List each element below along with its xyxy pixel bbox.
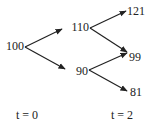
binomial-tree-diagram: 100110901219981 t = 0t = 2 xyxy=(0,0,149,128)
arrow-n0-n1u xyxy=(25,29,62,47)
arrow-n1u-n2uu xyxy=(90,11,126,28)
arrow-n1d-n2ud xyxy=(89,53,127,70)
nodes: 100110901219981 xyxy=(6,4,145,99)
arrow-n1u-n2ud xyxy=(90,28,127,52)
arrow-n0-n1d xyxy=(25,47,65,69)
node-label-n2ud: 99 xyxy=(129,50,141,64)
node-label-n1u: 110 xyxy=(71,20,89,34)
tree-svg: 100110901219981 t = 0t = 2 xyxy=(0,0,149,128)
time-label: t = 0 xyxy=(16,108,38,122)
time-label: t = 2 xyxy=(111,108,133,122)
node-label-n1d: 90 xyxy=(76,64,88,78)
node-label-n2dd: 81 xyxy=(130,85,142,99)
arrow-n1d-n2dd xyxy=(89,70,127,91)
time-labels: t = 0t = 2 xyxy=(16,108,133,122)
node-label-n2uu: 121 xyxy=(127,4,145,18)
node-label-n0: 100 xyxy=(6,39,24,53)
